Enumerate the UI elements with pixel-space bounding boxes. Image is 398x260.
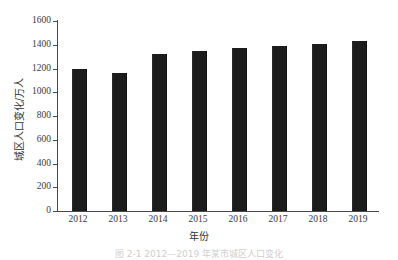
y-axis-tick-label: 400 (3, 159, 51, 169)
y-axis-tick (53, 164, 58, 165)
y-axis-tick (53, 187, 58, 188)
y-axis-tick-label: 800 (3, 111, 51, 121)
x-axis-tick-label: 2015 (178, 214, 218, 225)
y-axis-tick (53, 211, 58, 212)
plot-area (58, 21, 378, 211)
y-axis-tick-label: 1400 (3, 40, 51, 50)
y-axis-tick (53, 140, 58, 141)
x-axis-tick-label: 2019 (338, 214, 378, 225)
y-axis-tick-label: 200 (3, 182, 51, 192)
y-axis-tick-labels: 02004006008001000120014001600 (0, 0, 51, 257)
x-axis-tick-label: 2018 (298, 214, 338, 225)
x-axis-tick-label: 2017 (258, 214, 298, 225)
y-axis-tick-label: 1200 (3, 64, 51, 74)
y-axis-tick-label: 1600 (3, 16, 51, 26)
y-axis-tick (53, 69, 58, 70)
bar[interactable] (312, 44, 327, 211)
bar[interactable] (112, 73, 127, 211)
bar[interactable] (352, 41, 367, 211)
y-axis-tick (53, 45, 58, 46)
x-axis-tick-label: 2013 (98, 214, 138, 225)
y-axis-tick-label: 1000 (3, 87, 51, 97)
figure-caption: 图 2-1 2012—2019 年某市城区人口变化 (0, 247, 398, 260)
bar[interactable] (72, 69, 87, 212)
bar[interactable] (152, 54, 167, 211)
x-axis-tick-label: 2016 (218, 214, 258, 225)
bar[interactable] (272, 46, 287, 211)
y-axis-tick-label: 0 (3, 206, 51, 216)
y-axis-tick-label: 600 (3, 135, 51, 145)
y-axis-tick (53, 92, 58, 93)
x-axis-title: 年份 (0, 228, 398, 243)
bar[interactable] (232, 48, 247, 211)
bar[interactable] (192, 51, 207, 211)
y-axis-tick (53, 21, 58, 22)
y-axis-tick (53, 116, 58, 117)
x-axis-line (57, 211, 379, 212)
x-axis-tick-label: 2014 (138, 214, 178, 225)
x-axis-tick-label: 2012 (58, 214, 98, 225)
